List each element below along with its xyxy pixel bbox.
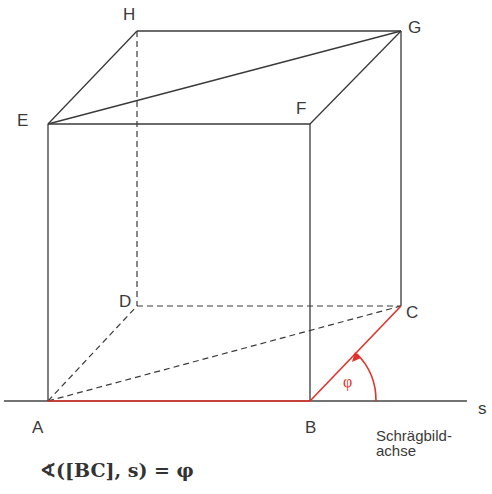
edge-FG xyxy=(310,31,401,124)
visible-edges xyxy=(48,31,401,401)
vertex-label-D: D xyxy=(119,292,131,311)
vertex-label-B: B xyxy=(305,418,316,437)
angle-formula: ∢([BC], s) = φ xyxy=(40,459,194,481)
vertex-label-G: G xyxy=(408,18,421,37)
vertex-label-E: E xyxy=(17,111,28,130)
angle-arc xyxy=(357,354,376,401)
edge-AD xyxy=(48,306,137,401)
angle-arrow-icon xyxy=(352,352,361,362)
axis-caption-line2: achse xyxy=(376,442,416,459)
vertex-label-A: A xyxy=(32,418,44,437)
diagonal-EG xyxy=(48,31,401,124)
axis-label-s: s xyxy=(478,399,487,418)
angle-label: φ xyxy=(343,373,352,391)
cuboid-diagram: φ H G E F D C A B s Schrägbild- achse xyxy=(0,0,492,494)
vertex-label-F: F xyxy=(296,99,306,118)
vertex-label-C: C xyxy=(406,303,418,322)
vertex-label-H: H xyxy=(123,5,135,24)
hidden-edges xyxy=(48,31,401,401)
edge-EH xyxy=(48,31,137,124)
